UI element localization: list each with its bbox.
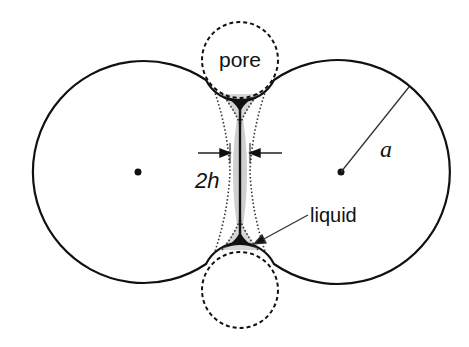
bottom-pore [202, 252, 278, 328]
radius-line [341, 87, 409, 172]
two-sphere-liquid-bridge-diagram: pore 2h a liquid [0, 0, 469, 347]
pore-label: pore [219, 48, 261, 71]
liquid-label: liquid [310, 204, 357, 226]
left-sphere-center-dot [135, 169, 142, 176]
liquid-leader-arrow [254, 215, 308, 244]
radius-label: a [380, 136, 392, 162]
gap-thickness-label: 2h [194, 168, 219, 193]
